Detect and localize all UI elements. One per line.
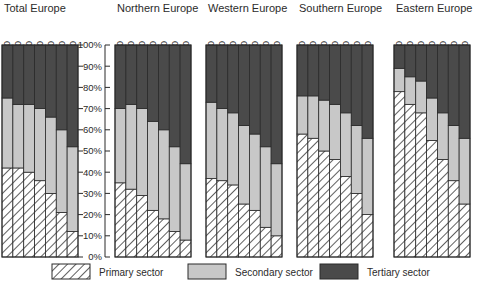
bar-segment-primary: [24, 172, 35, 257]
bar-segment-secondary: [67, 147, 78, 232]
bar-segment-secondary: [45, 117, 56, 193]
bar-segment-tertiary: [394, 45, 405, 68]
bar-segment-tertiary: [228, 45, 239, 113]
bar-segment-tertiary: [362, 45, 373, 138]
bar-segment-primary: [427, 140, 438, 257]
bar-segment-tertiary: [206, 45, 217, 102]
legend-swatch-primary: [52, 264, 90, 279]
bar-segment-secondary: [330, 104, 341, 159]
bar-segment-primary: [126, 189, 137, 257]
bar-segment-secondary: [228, 113, 239, 185]
bar-segment-primary: [148, 210, 159, 257]
bar-segment-primary: [405, 104, 416, 257]
bar-segment-tertiary: [158, 45, 169, 130]
bar-segment-tertiary: [217, 45, 228, 109]
bar-segment-primary: [137, 196, 148, 257]
bar-segment-primary: [45, 193, 56, 257]
bar-segment-secondary: [362, 138, 373, 214]
bar-segment-primary: [260, 227, 271, 257]
legend-swatch-tertiary: [320, 264, 358, 279]
bar-segment-secondary: [394, 68, 405, 91]
bar-segment-tertiary: [340, 45, 351, 113]
bar-segment-tertiary: [416, 45, 427, 81]
bar-segment-tertiary: [137, 45, 148, 109]
bar-segment-secondary: [427, 98, 438, 140]
bar-segment-tertiary: [427, 45, 438, 98]
bar-segment-tertiary: [24, 45, 35, 104]
bar-segment-secondary: [169, 147, 180, 232]
bar-segment-primary: [416, 113, 427, 257]
bar-segment-primary: [67, 232, 78, 257]
bar-segment-primary: [340, 176, 351, 257]
chart-legend: Primary sectorSecondary sectorTertiary s…: [52, 264, 430, 279]
bar-segment-secondary: [126, 104, 137, 189]
bar-segment-primary: [394, 92, 405, 257]
y-tick-label: 60%: [83, 124, 103, 135]
bar-segment-tertiary: [180, 45, 191, 164]
bar-segment-secondary: [239, 126, 250, 204]
panel-title: Eastern Europe: [396, 2, 472, 14]
bar-segment-primary: [308, 138, 319, 257]
bar-segment-secondary: [271, 164, 282, 236]
bar-segment-tertiary: [319, 45, 330, 100]
y-tick-label: 80%: [83, 82, 103, 93]
bar-segment-secondary: [297, 96, 308, 134]
bar-segment-primary: [35, 181, 46, 257]
bar-segment-primary: [169, 232, 180, 257]
bar-segment-tertiary: [239, 45, 250, 126]
panel-title: Northern Europe: [117, 2, 198, 14]
y-tick-label: 10%: [83, 230, 103, 241]
bar-segment-secondary: [217, 109, 228, 181]
legend-swatch-secondary: [188, 264, 226, 279]
bar-segment-primary: [297, 134, 308, 257]
y-tick-label: 0%: [88, 251, 102, 262]
bar-segment-tertiary: [13, 45, 24, 104]
bar-segment-primary: [351, 193, 362, 257]
bar-segment-secondary: [459, 138, 470, 204]
bar-segment-primary: [206, 179, 217, 257]
bar-segment-tertiary: [2, 45, 13, 98]
legend-label-tertiary: Tertiary sector: [367, 267, 430, 278]
bar-segment-primary: [459, 204, 470, 257]
bar-segment-primary: [239, 204, 250, 257]
bar-segment-secondary: [56, 130, 67, 213]
bar-segment-tertiary: [351, 45, 362, 126]
bar-segment-secondary: [308, 96, 319, 138]
bar-segment-primary: [13, 168, 24, 257]
bar-segment-secondary: [405, 77, 416, 105]
bar-segment-secondary: [437, 113, 448, 160]
bar-segment-tertiary: [459, 45, 470, 138]
legend-label-secondary: Secondary sector: [235, 267, 313, 278]
bar-segment-secondary: [35, 109, 46, 181]
bar-segment-secondary: [260, 147, 271, 228]
y-tick-label: 70%: [83, 103, 103, 114]
y-tick-label: 30%: [83, 188, 103, 199]
y-tick-label: 90%: [83, 61, 103, 72]
bar-segment-primary: [448, 181, 459, 257]
stacked-bar-chart: Total Europe1910192019301940195019601970…: [0, 0, 478, 292]
bar-segment-tertiary: [115, 45, 126, 109]
panel-title: Southern Europe: [299, 2, 382, 14]
bar-segment-primary: [56, 212, 67, 257]
bar-segment-secondary: [158, 130, 169, 219]
bar-segment-tertiary: [169, 45, 180, 147]
bar-segment-secondary: [115, 109, 126, 183]
bar-segment-primary: [271, 236, 282, 257]
bar-segment-primary: [362, 215, 373, 257]
y-tick-label: 40%: [83, 167, 103, 178]
bar-segment-primary: [2, 168, 13, 257]
legend-label-primary: Primary sector: [99, 267, 164, 278]
bar-segment-secondary: [416, 81, 427, 113]
bar-segment-tertiary: [249, 45, 260, 134]
bar-segment-tertiary: [126, 45, 137, 104]
bar-segment-tertiary: [56, 45, 67, 130]
y-tick-label: 50%: [83, 145, 103, 156]
bar-segment-primary: [437, 159, 448, 257]
bar-segment-secondary: [340, 113, 351, 177]
bar-segment-secondary: [319, 100, 330, 151]
bar-segment-tertiary: [405, 45, 416, 77]
bar-segment-tertiary: [35, 45, 46, 109]
bar-segment-primary: [330, 159, 341, 257]
bar-segment-secondary: [351, 126, 362, 194]
bar-segment-secondary: [180, 164, 191, 240]
